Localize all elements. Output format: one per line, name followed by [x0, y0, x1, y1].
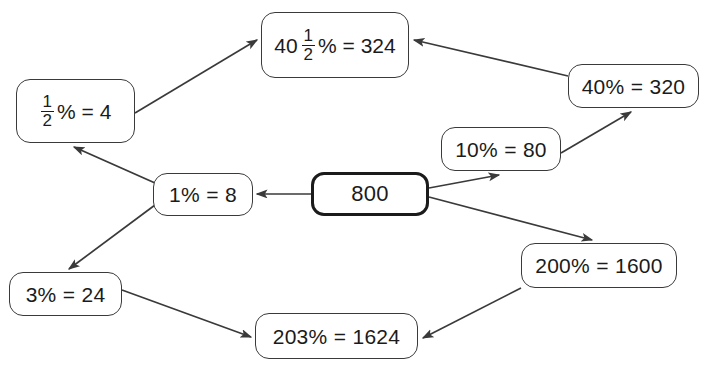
node-40-and-half-percent: 4012% = 324: [261, 12, 409, 78]
node-label-tail: % = 4: [57, 101, 111, 122]
node-label: 3% = 24: [26, 284, 106, 305]
node-203-percent: 203% = 1624: [255, 313, 418, 359]
node-label: 200% = 1600: [535, 255, 663, 276]
edge-800-to-200-percent: [429, 197, 592, 240]
node-half-percent: 12% = 4: [16, 79, 135, 143]
node-200-percent: 200% = 1600: [521, 243, 677, 288]
node-label: 1% = 8: [169, 184, 237, 205]
node-3-percent: 3% = 24: [9, 272, 122, 316]
node-10-percent: 10% = 80: [441, 127, 561, 171]
fraction-numerator: 1: [41, 93, 54, 110]
node-label: 4012% = 324: [274, 27, 395, 63]
node-800: 800: [311, 172, 429, 216]
edge-800-to-10-percent: [429, 175, 499, 188]
node-label: 40% = 320: [582, 76, 686, 97]
node-1-percent: 1% = 8: [153, 173, 253, 216]
node-label: 800: [351, 183, 389, 205]
node-label: 12% = 4: [40, 93, 112, 129]
edge-40-percent-to-40-half-percent: [414, 40, 568, 76]
fraction-denominator: 2: [302, 45, 315, 63]
mixed-whole-part: 40: [274, 35, 297, 56]
edge-half-percent-to-40-half-percent: [135, 40, 257, 113]
node-label-tail: % = 324: [318, 35, 396, 56]
fraction: 12: [302, 27, 315, 63]
diagram-canvas: 8001% = 812% = 44012% = 32440% = 32010% …: [0, 0, 703, 380]
edge-10-percent-to-40-percent: [561, 112, 631, 153]
fraction: 12: [41, 93, 54, 129]
node-label: 203% = 1624: [273, 326, 401, 347]
fraction-numerator: 1: [302, 27, 315, 44]
node-label: 10% = 80: [455, 139, 547, 160]
edge-1-percent-to-half-percent: [74, 147, 155, 183]
node-40-percent: 40% = 320: [568, 64, 699, 108]
edge-3-percent-to-203-percent: [122, 290, 251, 337]
fraction-denominator: 2: [41, 111, 54, 129]
edge-1-percent-to-3-percent: [69, 205, 155, 269]
edge-200-percent-to-203-percent: [423, 288, 521, 338]
